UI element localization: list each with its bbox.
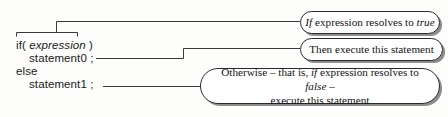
- code-if-prefix: if(: [16, 39, 29, 51]
- statement0-leader-line: [96, 49, 300, 59]
- code-line-statement0: statement0 ;: [29, 52, 93, 64]
- callout-then-execute: Then execute this statement: [300, 38, 443, 61]
- callout-true-part2: expression resolves to: [312, 16, 416, 28]
- callout-then-text: Then execute this statement: [309, 42, 434, 56]
- expression-bracket: [17, 33, 78, 37]
- code-if-expression: expression: [29, 39, 86, 51]
- callout-else-part4: false: [305, 80, 326, 92]
- code-line-statement1: statement1 ;: [29, 78, 93, 90]
- callout-else-line2: execute this statement: [271, 94, 370, 106]
- expression-leader-line: [57, 22, 301, 33]
- code-if-suffix: ): [86, 39, 93, 51]
- diagram-canvas: if( expression ) statement0 ; else state…: [0, 0, 448, 117]
- callout-otherwise: Otherwise – that is, if expression resol…: [200, 68, 440, 104]
- callout-true-part3: true: [417, 16, 435, 28]
- code-line-else: else: [16, 65, 38, 77]
- callout-else-part1: Otherwise – that is,: [221, 66, 311, 78]
- callout-else-part5: –: [326, 80, 334, 92]
- code-line-if: if( expression ): [16, 39, 93, 51]
- callout-else-part3: expression resolves to: [317, 66, 419, 78]
- callout-if-true: If expression resolves to true: [300, 11, 440, 34]
